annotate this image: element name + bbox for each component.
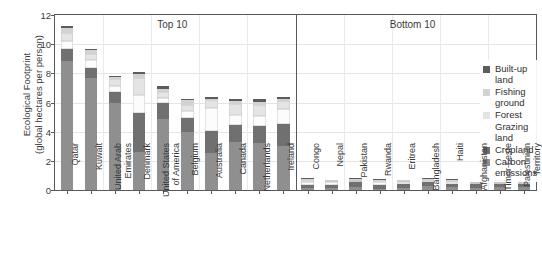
bar-segment-grazing-land bbox=[229, 115, 242, 125]
x-axis-tick-mark bbox=[259, 190, 260, 194]
bar-segment-forest bbox=[253, 105, 266, 115]
x-axis-tick-mark bbox=[211, 190, 212, 194]
x-axis-label: Bangladesh bbox=[431, 143, 441, 199]
x-axis-tick-mark bbox=[404, 190, 405, 194]
x-axis-label: Nepal bbox=[335, 143, 345, 199]
y-axis-title-line2: (global hectares per person) bbox=[32, 0, 44, 190]
legend-item: Fishing ground bbox=[483, 86, 537, 108]
legend-swatch-icon bbox=[483, 124, 490, 131]
x-axis-label: Congo bbox=[311, 143, 321, 199]
panel-label-top: Top 10 bbox=[157, 19, 187, 30]
legend-item-label: Fishing ground bbox=[495, 86, 537, 108]
panel-label-bottom: Bottom 10 bbox=[390, 19, 436, 30]
x-axis-label: United States of America bbox=[161, 143, 181, 199]
legend-swatch-icon bbox=[483, 89, 490, 96]
legend-swatch-icon bbox=[483, 66, 490, 73]
x-axis-label: United Arab Emirates bbox=[113, 143, 133, 199]
x-axis-tick-mark bbox=[139, 190, 140, 194]
bar-segment-grazing-land bbox=[253, 116, 266, 126]
y-axis-title: Ecological Footprint (global hectares pe… bbox=[21, 0, 44, 190]
x-axis-label: Denmark bbox=[142, 143, 152, 199]
x-axis-label: Netherlands bbox=[262, 143, 272, 199]
x-axis-label: Eritrea bbox=[407, 143, 417, 199]
y-axis-title-line1: Ecological Footprint bbox=[21, 0, 33, 190]
x-axis-label: Rwanda bbox=[383, 143, 393, 199]
x-axis-tick-mark bbox=[356, 190, 357, 194]
legend-item: Forest bbox=[483, 109, 537, 120]
bar-segment-grazing-land bbox=[205, 108, 218, 131]
x-axis-tick-mark bbox=[235, 190, 236, 194]
bar-segment-cropland bbox=[109, 92, 122, 103]
x-axis-tick-mark bbox=[187, 190, 188, 194]
x-axis-label: Qatar bbox=[70, 143, 80, 199]
y-axis-tick-mark bbox=[51, 190, 55, 191]
bar-segment-forest bbox=[133, 78, 146, 95]
x-axis-label: Ireland bbox=[286, 143, 296, 199]
bar-segment-grazing-land bbox=[61, 41, 74, 49]
x-axis-tick-mark bbox=[67, 190, 68, 194]
x-axis-label: Afghanistan bbox=[479, 143, 489, 199]
x-axis-label: Kuwait bbox=[94, 143, 104, 199]
bar-segment-cropland bbox=[85, 68, 98, 79]
y-axis-tick-label: 10 bbox=[40, 39, 51, 50]
bar-segment-cropland bbox=[61, 49, 74, 61]
bar-segment-cropland bbox=[253, 126, 266, 144]
x-axis-tick-mark bbox=[500, 190, 501, 194]
x-axis-tick-mark bbox=[91, 190, 92, 194]
x-axis-label: Australia bbox=[214, 143, 224, 199]
x-axis-label: Pakistan bbox=[359, 143, 369, 199]
legend-item-label: Built-up land bbox=[495, 63, 537, 85]
bar-segment-cropland bbox=[157, 103, 170, 119]
legend-item: Grazing land bbox=[483, 121, 537, 143]
legend-item-label: Forest bbox=[495, 109, 522, 120]
bar-segment-grazing-land bbox=[277, 109, 290, 124]
x-axis-tick-mark bbox=[308, 190, 309, 194]
x-axis-tick-mark bbox=[283, 190, 284, 194]
x-axis-tick-mark bbox=[332, 190, 333, 194]
x-axis-label: Belgium bbox=[190, 143, 200, 199]
x-axis-label: Canada bbox=[238, 143, 248, 199]
bar-segment-forest bbox=[229, 104, 242, 115]
legend-item: Built-up land bbox=[483, 63, 537, 85]
x-axis-label: Timor-Leste bbox=[503, 143, 513, 199]
x-axis-label: Palestinian Territory bbox=[522, 143, 542, 199]
x-axis-label: Haiti bbox=[455, 143, 465, 199]
bar-segment-grazing-land bbox=[85, 60, 98, 67]
x-axis-tick-mark bbox=[380, 190, 381, 194]
x-axis-tick-mark bbox=[428, 190, 429, 194]
bar-segment-cropland bbox=[181, 118, 194, 133]
x-axis-tick-mark bbox=[476, 190, 477, 194]
bar-segment-forest bbox=[61, 33, 74, 41]
legend-swatch-icon bbox=[483, 112, 490, 119]
x-axis-tick-mark bbox=[452, 190, 453, 194]
bar-segment-cropland bbox=[229, 125, 242, 142]
bar-segment-grazing-land bbox=[133, 95, 146, 113]
legend-item-label: Grazing land bbox=[495, 121, 537, 143]
bar-segment-forest bbox=[205, 100, 218, 107]
y-axis-tick-label: 12 bbox=[40, 10, 51, 21]
bar-segment-forest bbox=[277, 101, 290, 109]
